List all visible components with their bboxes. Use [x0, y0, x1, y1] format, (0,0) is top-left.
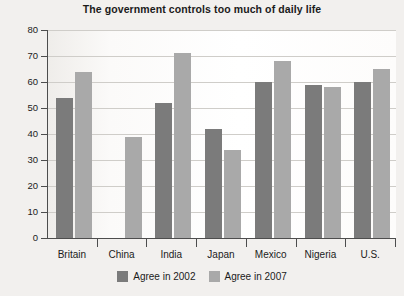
legend-item: Agree in 2007 — [209, 271, 287, 282]
bar — [255, 82, 272, 238]
legend-swatch — [117, 271, 128, 282]
y-axis-tick-label: 30 — [8, 155, 38, 165]
x-axis-tick-label: Nigeria — [296, 249, 346, 260]
x-axis-tick-mark — [146, 239, 147, 247]
bar — [155, 103, 172, 238]
gridline — [48, 30, 396, 31]
y-axis-tick-label: 60 — [8, 77, 38, 87]
x-axis-tick-mark — [395, 239, 396, 247]
x-axis-tick-label: China — [97, 249, 147, 260]
bar — [75, 72, 92, 238]
chart-legend: Agree in 2002Agree in 2007 — [0, 271, 404, 282]
gridline — [48, 82, 396, 83]
y-axis-tick-label: 70 — [8, 51, 38, 61]
legend-label: Agree in 2002 — [133, 271, 195, 282]
bar — [274, 61, 291, 238]
y-axis-tick-label: 50 — [8, 103, 38, 113]
x-axis-tick-mark — [196, 239, 197, 247]
plot-area — [47, 30, 396, 239]
y-axis-tick-label: 20 — [8, 181, 38, 191]
y-axis-tick-label: 10 — [8, 207, 38, 217]
gridline — [48, 108, 396, 109]
legend-label: Agree in 2007 — [225, 271, 287, 282]
x-axis-tick-label: India — [146, 249, 196, 260]
x-axis-tick-mark — [246, 239, 247, 247]
x-axis-tick-label: Britain — [47, 249, 97, 260]
x-axis-tick-label: U.S. — [345, 249, 395, 260]
x-axis-tick-label: Japan — [196, 249, 246, 260]
x-axis-tick-mark — [296, 239, 297, 247]
bar — [305, 85, 322, 238]
y-axis-tick-label: 80 — [8, 25, 38, 35]
bar — [324, 87, 341, 238]
bar — [354, 82, 371, 238]
y-axis-tick-label: 40 — [8, 129, 38, 139]
bar — [205, 129, 222, 238]
x-axis-tick-label: Mexico — [246, 249, 296, 260]
bar — [174, 53, 191, 238]
bar — [56, 98, 73, 238]
bar — [125, 137, 142, 238]
y-axis-tick-label: 0 — [8, 233, 38, 243]
legend-swatch — [209, 271, 220, 282]
x-axis-tick-mark — [345, 239, 346, 247]
bar — [373, 69, 390, 238]
bar — [224, 150, 241, 238]
gridline — [48, 56, 396, 57]
x-axis-tick-mark — [97, 239, 98, 247]
chart-title: The government controls too much of dail… — [0, 3, 404, 15]
legend-item: Agree in 2002 — [117, 271, 195, 282]
